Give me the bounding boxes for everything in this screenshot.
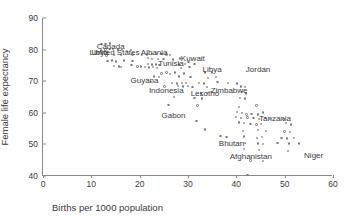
data-point <box>239 97 242 100</box>
data-point <box>160 72 163 75</box>
x-tick-label: 20 <box>135 179 144 189</box>
data-point <box>195 120 198 123</box>
y-tick-mark <box>43 112 46 113</box>
data-point <box>216 81 219 84</box>
y-tick-mark <box>43 18 46 19</box>
y-tick-mark <box>43 144 46 145</box>
data-point <box>287 150 290 153</box>
x-tick-mark <box>285 175 286 178</box>
data-point <box>235 116 238 119</box>
data-point <box>178 75 181 78</box>
data-point <box>183 72 186 75</box>
y-axis-title: Female life expectancy <box>0 48 10 145</box>
data-point <box>260 123 263 126</box>
data-point <box>140 65 143 68</box>
data-point <box>227 82 230 85</box>
data-point <box>262 143 265 146</box>
data-point <box>246 116 249 119</box>
data-point <box>201 97 204 100</box>
data-point <box>290 123 293 126</box>
data-point <box>196 104 199 107</box>
point-label-afghanistan: Afghanistan <box>230 152 272 161</box>
data-point <box>256 137 259 140</box>
y-tick-label: 80 <box>29 45 43 55</box>
data-point <box>280 137 283 140</box>
x-tick-mark <box>43 175 44 178</box>
x-tick-label: 10 <box>87 179 96 189</box>
point-label-albania: Albania <box>141 48 168 57</box>
data-point <box>252 117 255 120</box>
data-point <box>111 59 114 62</box>
data-point <box>288 142 291 145</box>
y-tick-label: 50 <box>29 139 43 149</box>
x-tick-mark <box>333 175 334 178</box>
point-label-tanzania: Tanzania <box>259 113 291 122</box>
x-tick-label: 60 <box>328 179 337 189</box>
data-point <box>167 104 170 107</box>
data-point <box>261 136 264 139</box>
data-point <box>188 66 191 69</box>
data-point <box>238 121 241 124</box>
point-label-niger: Niger <box>304 151 323 160</box>
data-point <box>242 130 245 133</box>
data-point <box>243 148 246 151</box>
data-point <box>189 76 192 79</box>
scatter-chart: Female life expectancy Births per 1000 p… <box>0 0 351 221</box>
data-point <box>241 112 244 115</box>
point-label-zimbabwe: Zimbabwe <box>211 85 248 94</box>
data-point <box>181 82 184 85</box>
y-tick-mark <box>43 49 46 50</box>
data-point <box>286 137 289 140</box>
data-point <box>255 104 258 107</box>
data-point <box>236 111 239 114</box>
data-point <box>147 63 150 66</box>
data-point <box>173 96 176 99</box>
point-label-kuwait: Kuwait <box>181 53 205 62</box>
data-point <box>171 82 174 85</box>
y-tick-label: 60 <box>29 108 43 118</box>
data-point <box>250 113 253 116</box>
data-point <box>136 65 139 68</box>
plot-area: 405060708090 0102030405060 CanadaUnited … <box>42 18 332 176</box>
data-point <box>207 77 210 80</box>
data-point <box>156 67 159 70</box>
data-point <box>193 63 196 66</box>
data-point <box>238 106 241 109</box>
data-point <box>215 76 218 79</box>
data-point <box>293 137 296 140</box>
x-tick-label: 30 <box>183 179 192 189</box>
data-point <box>120 66 123 69</box>
data-point <box>113 65 116 68</box>
data-point <box>285 122 288 125</box>
data-point <box>219 135 222 138</box>
x-tick-mark <box>91 175 92 178</box>
data-point <box>257 142 260 145</box>
data-point <box>289 131 292 134</box>
data-point <box>155 63 158 66</box>
data-point <box>106 60 109 63</box>
data-point <box>283 130 286 133</box>
point-label-libya: Libya <box>90 47 109 56</box>
data-point <box>298 142 301 145</box>
point-label-guyana: Guyana <box>130 75 158 84</box>
data-point <box>174 71 177 74</box>
y-tick-mark <box>43 81 46 82</box>
x-tick-mark <box>188 175 189 178</box>
data-point <box>249 123 252 126</box>
point-label-gabon: Gabon <box>161 111 185 120</box>
data-point <box>244 97 247 100</box>
x-tick-label: 40 <box>232 179 241 189</box>
data-point <box>131 60 134 63</box>
data-point <box>243 122 246 125</box>
x-tick-mark <box>236 175 237 178</box>
data-point <box>246 174 249 177</box>
data-point <box>187 85 190 88</box>
data-point <box>123 59 126 62</box>
x-axis-title: Births per 1000 population <box>52 202 163 213</box>
data-point <box>130 64 133 67</box>
point-label-libya: Libya <box>203 65 222 74</box>
data-point <box>198 82 201 85</box>
data-point <box>257 129 260 132</box>
point-label-indonesia: Indonesia <box>149 85 184 94</box>
data-point <box>115 60 118 63</box>
